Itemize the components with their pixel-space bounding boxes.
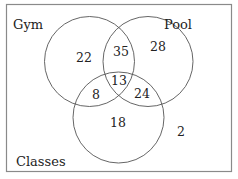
region-none: 2 (177, 124, 185, 139)
gym-label: Gym (13, 17, 43, 32)
region-gym-classes: 8 (92, 87, 100, 102)
region-pool-only: 28 (150, 39, 166, 54)
pool-label: Pool (164, 17, 192, 32)
venn-diagram: Gym Pool Classes 22 35 28 13 8 24 18 2 (0, 0, 238, 179)
region-gym-pool: 35 (113, 44, 129, 59)
region-pool-classes: 24 (134, 86, 150, 101)
region-classes-only: 18 (110, 115, 126, 130)
classes-label: Classes (16, 154, 66, 169)
region-all-three: 13 (111, 73, 127, 88)
region-gym-only: 22 (76, 50, 92, 65)
